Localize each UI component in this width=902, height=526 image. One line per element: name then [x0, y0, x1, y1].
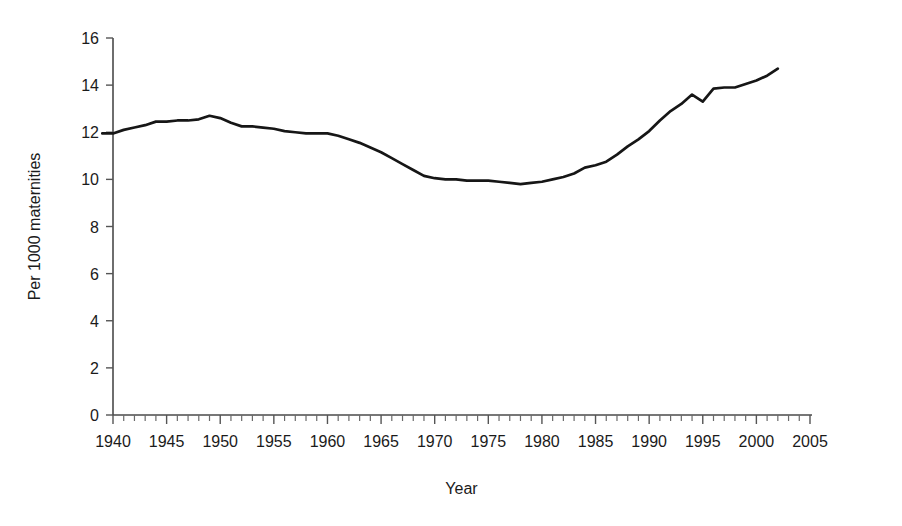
- x-tick-label: 1960: [310, 433, 346, 450]
- y-tick-label: 2: [90, 360, 99, 377]
- x-tick-label: 1945: [149, 433, 185, 450]
- y-tick-label: 6: [90, 266, 99, 283]
- y-tick-label: 10: [81, 171, 99, 188]
- series-line: [102, 69, 778, 184]
- x-tick-label: 1985: [578, 433, 614, 450]
- x-tick-label: 1975: [471, 433, 507, 450]
- x-tick-label: 1940: [95, 433, 131, 450]
- y-tick-label: 16: [81, 30, 99, 47]
- y-tick-label: 12: [81, 124, 99, 141]
- y-tick-label: 4: [90, 313, 99, 330]
- x-tick-label: 1995: [685, 433, 721, 450]
- x-tick-label: 1950: [202, 433, 238, 450]
- chart-figure: 1940194519501955196019651970197519801985…: [0, 0, 902, 526]
- x-tick-label: 1965: [363, 433, 399, 450]
- x-tick-label: 1955: [256, 433, 292, 450]
- y-tick-label: 8: [90, 219, 99, 236]
- y-tick-labels: 0246810121416: [81, 30, 99, 424]
- tick-marks: [106, 38, 810, 424]
- x-tick-label: 2000: [739, 433, 775, 450]
- x-tick-label: 2005: [792, 433, 828, 450]
- y-axis-title: Per 1000 maternities: [26, 153, 43, 301]
- x-tick-label: 1970: [417, 433, 453, 450]
- x-tick-label: 1980: [524, 433, 560, 450]
- x-tick-labels: 1940194519501955196019651970197519801985…: [95, 433, 828, 450]
- line-chart: 1940194519501955196019651970197519801985…: [0, 0, 902, 526]
- y-tick-label: 14: [81, 77, 99, 94]
- x-axis-title: Year: [445, 480, 478, 497]
- x-tick-label: 1990: [631, 433, 667, 450]
- data-series: [102, 69, 778, 184]
- y-tick-label: 0: [90, 407, 99, 424]
